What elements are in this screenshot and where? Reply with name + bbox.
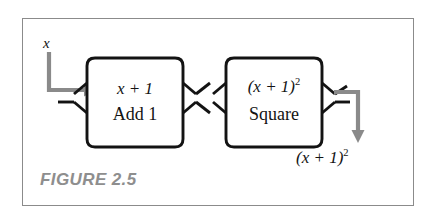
input-variable-label: x — [43, 36, 50, 51]
box-square-expression-base: (x + 1) — [248, 77, 295, 96]
output-expression-exponent: 2 — [343, 147, 348, 158]
figure-2-5: x x + 1 Add 1 (x + 1)2 Square (x + 1)2 F… — [0, 0, 436, 223]
figure-caption: FIGURE 2.5 — [40, 170, 137, 190]
box-square-operation-label: Square — [226, 104, 322, 125]
output-expression-base: (x + 1) — [296, 148, 343, 167]
box-square-expression: (x + 1)2 — [226, 76, 322, 97]
box-add-one-expression: x + 1 — [87, 79, 183, 99]
output-expression-label: (x + 1)2 — [296, 148, 349, 166]
box-square-expression-exponent: 2 — [295, 76, 300, 87]
box-add-one-expression-text: x + 1 — [117, 79, 153, 98]
box-add-one-operation-label: Add 1 — [87, 104, 183, 125]
